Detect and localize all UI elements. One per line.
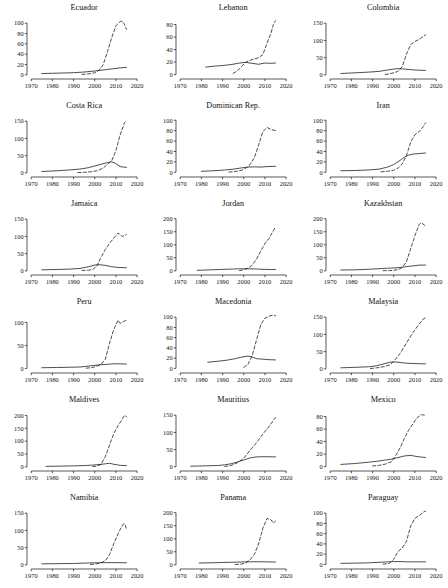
x-tick-label: 1970: [324, 180, 337, 187]
y-tick-label: 50: [316, 348, 322, 355]
series-line-dashed: [86, 320, 126, 368]
x-tick-label: 2000: [238, 474, 251, 481]
x-tick-label: 2010: [259, 376, 272, 383]
chart-panel: Macedonia0204060801001970198019902000201…: [149, 294, 298, 392]
x-tick-label: 2020: [280, 474, 293, 481]
chart-panel: Maldives05010015020019701980199020002010…: [0, 392, 149, 490]
x-tick-label: 1970: [174, 278, 187, 285]
series-line-solid: [42, 162, 127, 172]
panel-title: Ecuador: [71, 3, 99, 12]
series-line-dashed: [82, 21, 126, 74]
y-tick-label: 60: [167, 137, 173, 144]
chart-canvas: Costa Rica050100150197019801990200020102…: [0, 98, 149, 196]
chart-panel: Namibia050100150197019801990200020102020: [0, 490, 149, 588]
chart-panel: Jamaica050100150197019801990200020102020: [0, 196, 149, 294]
panel-title: Kazakhstan: [364, 199, 402, 208]
series-line-solid: [340, 69, 425, 74]
y-tick-label: 50: [17, 250, 23, 257]
x-tick-label: 2000: [238, 180, 251, 187]
x-tick-label: 2010: [408, 572, 421, 579]
x-tick-label: 2020: [429, 376, 442, 383]
panel-title: Jamaica: [71, 199, 98, 208]
x-tick-label: 1990: [67, 572, 80, 579]
y-tick-label: 0: [170, 169, 173, 176]
x-tick-label: 1990: [217, 572, 230, 579]
panel-title: Namibia: [70, 493, 99, 502]
y-tick-label: 0: [319, 71, 322, 78]
y-tick-label: 150: [313, 228, 323, 235]
series-line-dashed: [78, 121, 127, 173]
y-tick-label: 0: [20, 169, 23, 176]
x-tick-label: 1980: [345, 278, 358, 285]
x-tick-label: 1980: [46, 278, 59, 285]
y-tick-label: 20: [167, 354, 173, 361]
x-tick-label: 1970: [324, 376, 337, 383]
series-line-solid: [200, 562, 276, 563]
x-tick-label: 2020: [429, 474, 442, 481]
y-tick-label: 50: [167, 446, 173, 453]
x-tick-label: 1970: [174, 474, 187, 481]
x-tick-label: 2010: [408, 278, 421, 285]
y-tick-label: 100: [313, 331, 323, 338]
series-line-solid: [46, 463, 126, 466]
y-tick-label: 0: [170, 561, 173, 568]
chart-panel: Peru050100197019801990200020102020: [0, 294, 149, 392]
series-line-dashed: [370, 318, 425, 369]
chart-panel: Dominican Rep.02040608010019701980199020…: [149, 98, 298, 196]
series-line-solid: [340, 455, 425, 464]
x-tick-label: 1990: [217, 180, 230, 187]
x-tick-label: 1980: [46, 376, 59, 383]
chart-canvas: Ecuador020406080100197019801990200020102…: [0, 0, 149, 98]
series-line-dashed: [93, 415, 127, 466]
x-tick-label: 1990: [366, 278, 379, 285]
series-line-solid: [202, 166, 276, 171]
y-tick-label: 60: [316, 530, 322, 537]
chart-panel: Jordan0501001502001970198019902000201020…: [149, 196, 298, 294]
chart-canvas: Jamaica050100150197019801990200020102020: [0, 196, 149, 294]
x-tick-label: 1970: [25, 376, 38, 383]
chart-canvas: Colombia05010015019701980199020002010202…: [299, 0, 448, 98]
x-tick-label: 2010: [408, 474, 421, 481]
y-tick-label: 0: [170, 463, 173, 470]
x-tick-label: 1980: [195, 278, 208, 285]
y-tick-label: 40: [316, 148, 322, 155]
x-tick-label: 1970: [25, 474, 38, 481]
x-tick-label: 2000: [88, 376, 101, 383]
chart-canvas: Mexico020406080197019801990200020102020: [299, 392, 448, 490]
x-tick-label: 2000: [238, 278, 251, 285]
x-tick-label: 1990: [217, 474, 230, 481]
panel-title: Jordan: [223, 199, 245, 208]
x-tick-label: 2010: [259, 82, 272, 89]
y-tick-label: 0: [319, 169, 322, 176]
y-tick-label: 100: [14, 527, 24, 534]
y-tick-label: 50: [316, 54, 322, 61]
y-tick-label: 150: [14, 509, 24, 516]
panel-title: Panama: [221, 493, 247, 502]
chart-panel: Mexico020406080197019801990200020102020: [299, 392, 448, 490]
x-tick-label: 1990: [67, 474, 80, 481]
x-tick-label: 1990: [366, 82, 379, 89]
y-tick-label: 100: [313, 37, 323, 44]
y-tick-label: 0: [319, 267, 322, 274]
series-line-dashed: [240, 227, 276, 271]
x-tick-label: 1970: [324, 278, 337, 285]
y-tick-label: 40: [17, 50, 23, 57]
chart-panel: Panama0501001502001970198019902000201020…: [149, 490, 298, 588]
chart-canvas: Panama0501001502001970198019902000201020…: [149, 490, 298, 588]
y-tick-label: 150: [163, 411, 173, 418]
x-tick-label: 2000: [238, 82, 251, 89]
series-line-dashed: [383, 223, 425, 271]
series-line-solid: [42, 364, 127, 368]
chart-canvas: Maldives05010015020019701980199020002010…: [0, 392, 149, 490]
y-tick-label: 100: [313, 241, 323, 248]
chart-canvas: Macedonia0204060801001970198019902000201…: [149, 294, 298, 392]
y-tick-label: 80: [167, 21, 173, 28]
y-tick-label: 60: [316, 425, 322, 432]
y-tick-label: 100: [14, 437, 24, 444]
chart-panel: Ecuador020406080100197019801990200020102…: [0, 0, 149, 98]
x-tick-label: 1980: [345, 180, 358, 187]
x-tick-label: 2000: [387, 572, 400, 579]
series-line-solid: [42, 563, 127, 564]
y-tick-label: 40: [167, 46, 173, 53]
x-tick-label: 2010: [110, 572, 123, 579]
